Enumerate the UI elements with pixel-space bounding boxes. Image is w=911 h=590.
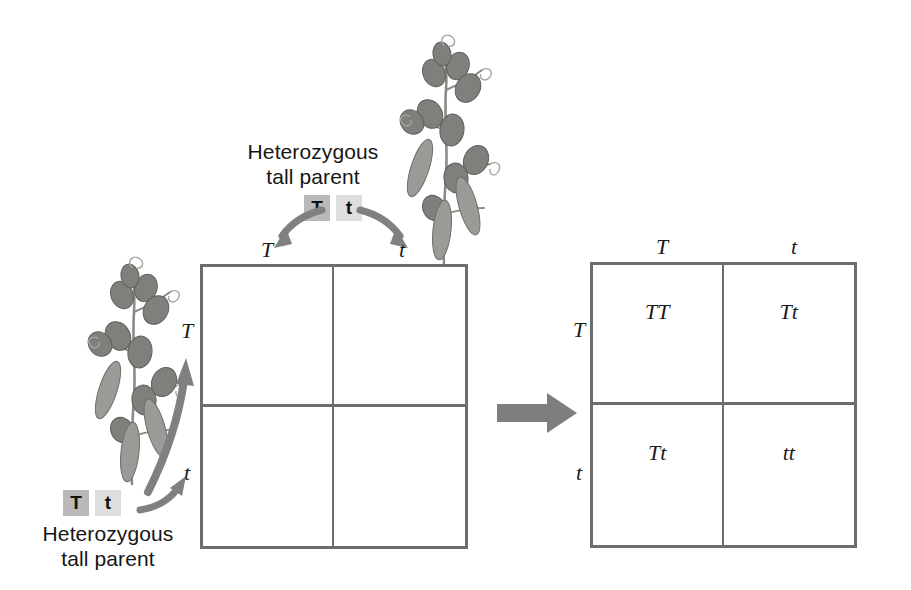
empty-punnett-square[interactable] [200,264,468,549]
blank-square-column-header-2: t [389,237,415,263]
punnett-cell-text: Tt [780,299,798,325]
allele-chip-recessive: t [95,490,121,516]
completed-punnett-square[interactable]: TT Tt Tt tt [590,262,857,548]
filled-square-row-header-2: t [566,460,592,486]
punnett-cell-blank-r0c1[interactable] [334,267,465,407]
filled-square-row-header-1: T [566,317,592,343]
blank-square-column-header-1: T [254,237,280,263]
punnett-cell-filled-r1c0[interactable]: Tt [593,405,724,545]
punnett-cell-filled-r1c1[interactable]: tt [724,405,855,545]
punnett-cell-text: tt [783,440,795,466]
punnett-cell-text: TT [645,299,669,325]
blank-square-row-header-2: t [174,460,200,486]
blank-square-row-header-1: T [174,318,200,344]
punnett-cell-blank-r1c0[interactable] [203,407,334,547]
punnett-cell-blank-r1c1[interactable] [334,407,465,547]
filled-square-column-header-1: T [649,234,675,260]
punnett-cell-blank-r0c0[interactable] [203,267,334,407]
left-parent-genotype: T t [63,490,121,516]
punnett-cell-filled-r0c1[interactable]: Tt [724,265,855,405]
left-parent-caption: Heterozygous tall parent [28,522,188,572]
punnett-cell-filled-r0c0[interactable]: TT [593,265,724,405]
right-block-arrow-icon [497,391,579,435]
punnett-square-diagram: Heterozygous tall parent T t T t [0,0,911,590]
allele-chip-dominant: T [63,490,89,516]
top-parent-caption: Heterozygous tall parent [238,140,388,190]
filled-square-column-header-2: t [781,234,807,260]
punnett-cell-text: Tt [648,440,666,466]
